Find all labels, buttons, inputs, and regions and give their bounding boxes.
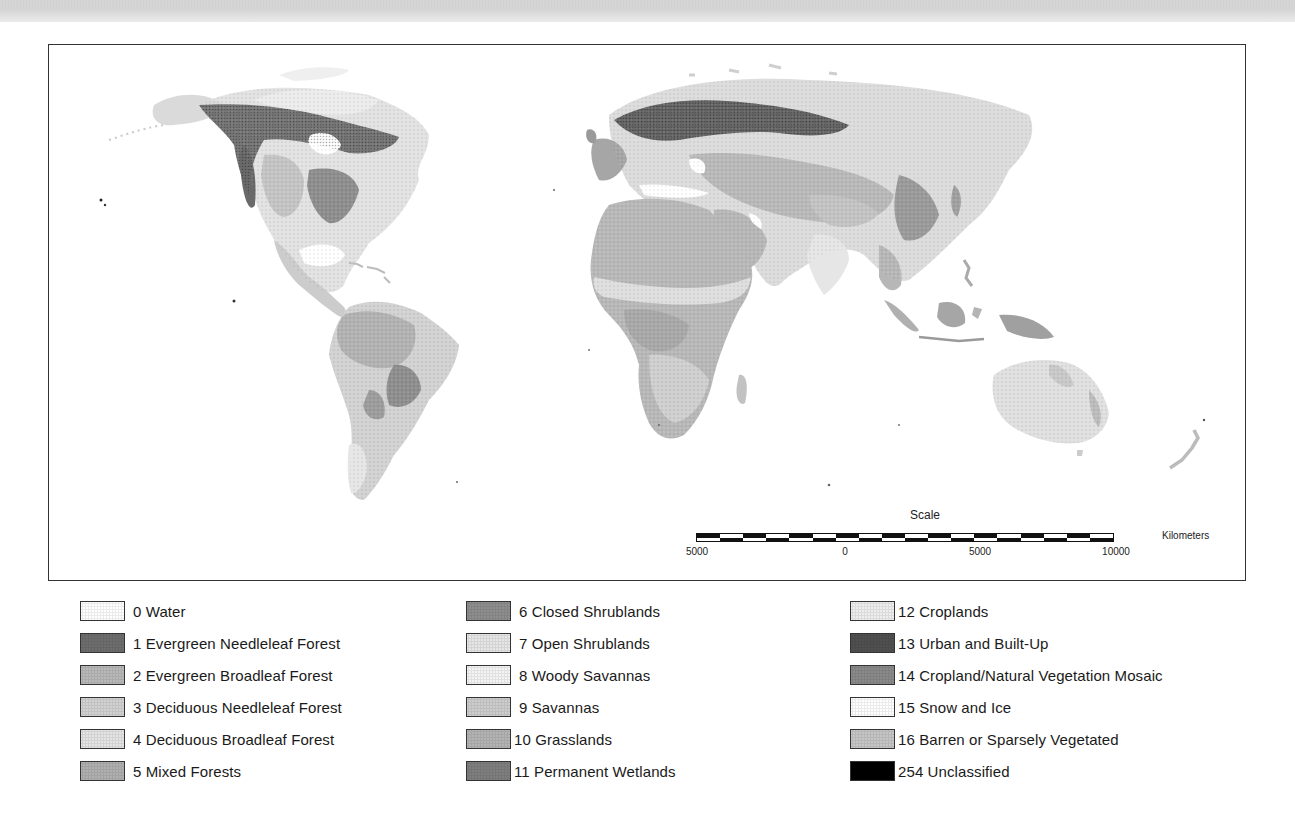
legend-item-open-shrublands: 7 Open Shrublands	[466, 627, 676, 659]
legend-swatch	[850, 697, 895, 717]
legend-label: 0 Water	[133, 603, 186, 620]
legend-item-deciduous-needleleaf: 3 Deciduous Needleleaf Forest	[80, 691, 342, 723]
legend-label: 15 Snow and Ice	[898, 699, 1011, 716]
legend-swatch	[80, 665, 125, 685]
legend-label: 12 Croplands	[898, 603, 988, 620]
scale-tick-label: 10000	[1102, 546, 1130, 557]
top-header-band	[0, 0, 1295, 22]
scale-segment	[743, 538, 766, 542]
scale-segment	[882, 538, 905, 542]
scale-title: Scale	[910, 508, 940, 522]
legend-label: 4 Deciduous Broadleaf Forest	[133, 731, 334, 748]
legend-item-mixed-forests: 5 Mixed Forests	[80, 755, 342, 787]
legend-swatch	[466, 601, 511, 621]
scale-segment	[974, 538, 997, 542]
legend-label: 6 Closed Shrublands	[519, 603, 660, 620]
scale-segment	[928, 538, 951, 542]
legend-label: 3 Deciduous Needleleaf Forest	[133, 699, 342, 716]
scale-segment	[905, 538, 928, 542]
south-america	[233, 300, 460, 501]
legend-label: 10 Grasslands	[514, 731, 612, 748]
legend-swatch	[466, 665, 511, 685]
legend-swatch	[850, 761, 895, 781]
legend-label: 254 Unclassified	[898, 763, 1010, 780]
legend-item-urban: 13 Urban and Built-Up	[850, 627, 1163, 659]
legend-swatch	[466, 761, 511, 781]
scale-segment	[789, 538, 812, 542]
legend-item-unclassified: 254 Unclassified	[850, 755, 1163, 787]
scale-segment	[766, 538, 789, 542]
scale-segment	[951, 538, 974, 542]
scale-segment	[836, 538, 859, 542]
legend-swatch	[80, 601, 125, 621]
scale-tick-label: 5000	[686, 546, 708, 557]
scale-segment	[997, 538, 1020, 542]
legend-item-snow-ice: 15 Snow and Ice	[850, 691, 1163, 723]
legend-item-grasslands: 10 Grasslands	[466, 723, 676, 755]
legend-swatch	[850, 665, 895, 685]
legend-label: 5 Mixed Forests	[133, 763, 241, 780]
scale-segment	[1021, 538, 1044, 542]
legend-swatch	[850, 633, 895, 653]
legend-label: 7 Open Shrublands	[519, 635, 650, 652]
legend-item-barren: 16 Barren or Sparsely Vegetated	[850, 723, 1163, 755]
legend-label: 1 Evergreen Needleleaf Forest	[133, 635, 340, 652]
legend-column-1: 0 Water 1 Evergreen Needleleaf Forest 2 …	[80, 595, 342, 787]
scale-segment	[1090, 538, 1113, 542]
legend-swatch	[466, 729, 511, 749]
scale-segment	[720, 538, 743, 542]
legend-item-woody-savannas: 8 Woody Savannas	[466, 659, 676, 691]
legend-item-savannas: 9 Savannas	[466, 691, 676, 723]
scale-bar-bottom-row	[697, 538, 1113, 542]
scale-bar	[696, 533, 1114, 542]
legend-swatch	[466, 697, 511, 717]
legend-label: 11 Permanent Wetlands	[514, 763, 676, 780]
legend-item-closed-shrublands: 6 Closed Shrublands	[466, 595, 676, 627]
legend-swatch	[80, 697, 125, 717]
legend-swatch	[466, 633, 511, 653]
legend-item-croplands: 12 Croplands	[850, 595, 1163, 627]
legend-item-evergreen-broadleaf: 2 Evergreen Broadleaf Forest	[80, 659, 342, 691]
legend-label: 14 Cropland/Natural Vegetation Mosaic	[898, 667, 1163, 684]
legend-swatch	[80, 729, 125, 749]
scale-segment	[697, 538, 720, 542]
legend-item-cropland-mosaic: 14 Cropland/Natural Vegetation Mosaic	[850, 659, 1163, 691]
scale-unit-label: Kilometers	[1162, 530, 1209, 541]
legend-item-permanent-wetlands: 11 Permanent Wetlands	[466, 755, 676, 787]
legend-item-deciduous-broadleaf: 4 Deciduous Broadleaf Forest	[80, 723, 342, 755]
legend-item-evergreen-needleleaf: 1 Evergreen Needleleaf Forest	[80, 627, 342, 659]
legend-label: 13 Urban and Built-Up	[898, 635, 1049, 652]
legend-swatch	[80, 761, 125, 781]
scale-tick-label: 5000	[969, 546, 991, 557]
legend-label: 16 Barren or Sparsely Vegetated	[898, 731, 1119, 748]
legend-swatch	[850, 601, 895, 621]
legend-label: 9 Savannas	[519, 699, 599, 716]
world-map-graphic	[49, 45, 1246, 581]
legend-label: 2 Evergreen Broadleaf Forest	[133, 667, 333, 684]
scale-segment	[813, 538, 836, 542]
north-america	[100, 67, 430, 317]
legend-label: 8 Woody Savannas	[519, 667, 650, 684]
legend-swatch	[80, 633, 125, 653]
land-cover-legend: 0 Water 1 Evergreen Needleleaf Forest 2 …	[80, 595, 1260, 775]
oceania	[884, 260, 1205, 468]
legend-item-water: 0 Water	[80, 595, 342, 627]
legend-column-3: 12 Croplands 13 Urban and Built-Up 14 Cr…	[850, 595, 1163, 787]
scale-tick-label: 0	[842, 546, 848, 557]
scale-segment	[1044, 538, 1067, 542]
scale-segment	[859, 538, 882, 542]
scale-segment	[1067, 538, 1090, 542]
legend-swatch	[850, 729, 895, 749]
africa	[591, 199, 753, 439]
world-land-cover-map	[48, 44, 1246, 581]
legend-column-2: 6 Closed Shrublands 7 Open Shrublands 8 …	[466, 595, 676, 787]
